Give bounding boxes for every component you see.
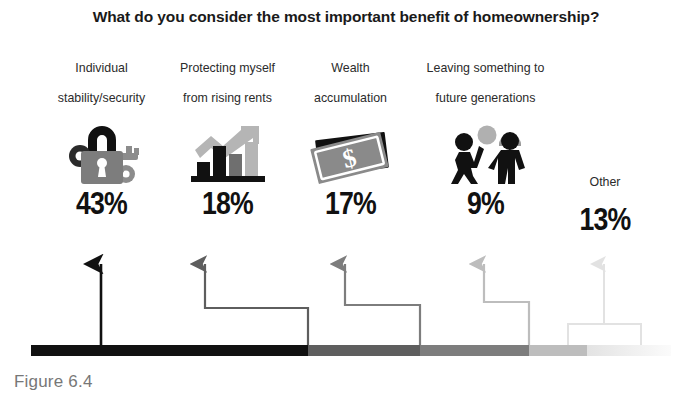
chart-title: What do you consider the most important … bbox=[0, 8, 692, 26]
icon-slot: $ bbox=[288, 120, 413, 186]
two-children-ball-icon bbox=[443, 124, 529, 186]
category-column-future-generations: Leaving something to future generations … bbox=[408, 46, 563, 222]
category-label-line2: future generations bbox=[436, 91, 536, 105]
category-label: Wealth accumulation bbox=[288, 46, 413, 106]
leader-line-other bbox=[568, 264, 641, 347]
category-label-line2: from rising rents bbox=[183, 91, 272, 105]
category-label: Leaving something to future generations bbox=[408, 46, 563, 106]
category-label-line2: stability/security bbox=[58, 91, 145, 105]
icon-slot bbox=[408, 120, 563, 186]
percentage-value: 13% bbox=[557, 202, 653, 238]
bar-segment-other bbox=[587, 345, 671, 356]
category-label-line1: Leaving something to bbox=[427, 61, 545, 75]
bar-segment-wealth-accumulation bbox=[420, 345, 529, 356]
category-column-protecting-rents: Protecting myself from rising rents 18% bbox=[155, 46, 300, 222]
stacked-bar-plot bbox=[0, 248, 692, 358]
category-label-line1: Protecting myself bbox=[180, 61, 275, 75]
padlock-key-icon bbox=[56, 122, 148, 186]
stacked-bar bbox=[31, 345, 671, 356]
bar-chart-arrow-icon bbox=[189, 124, 267, 186]
icon-slot bbox=[155, 120, 300, 186]
category-label-line1: Wealth bbox=[331, 61, 369, 75]
bar-segment-protecting-rents bbox=[308, 345, 420, 356]
dollar-banknotes-icon: $ bbox=[303, 128, 399, 186]
figure-canvas: What do you consider the most important … bbox=[0, 0, 692, 402]
bar-and-leaders-svg bbox=[0, 248, 692, 358]
bar-segment-individual-stability bbox=[31, 345, 308, 356]
percentage-value: 17% bbox=[297, 186, 405, 222]
category-column-other: Other 13% bbox=[549, 160, 661, 238]
leader-line-protecting-rents bbox=[205, 264, 308, 347]
category-label-line1: Other bbox=[590, 175, 621, 189]
bar-segment-future-generations bbox=[529, 345, 587, 356]
leader-line-future-generations bbox=[484, 264, 529, 347]
percentage-value: 43% bbox=[35, 186, 168, 222]
category-label-line1: Individual bbox=[75, 61, 127, 75]
category-label: Other bbox=[549, 160, 661, 190]
percentage-value: 9% bbox=[419, 186, 552, 222]
figure-caption: Figure 6.4 bbox=[14, 372, 93, 392]
category-label: Protecting myself from rising rents bbox=[155, 46, 300, 106]
percentage-value: 18% bbox=[165, 186, 290, 222]
category-label-line2: accumulation bbox=[314, 91, 387, 105]
category-column-wealth-accumulation: Wealth accumulation $ 17% bbox=[288, 46, 413, 222]
leader-line-wealth-accumulation bbox=[345, 264, 420, 347]
